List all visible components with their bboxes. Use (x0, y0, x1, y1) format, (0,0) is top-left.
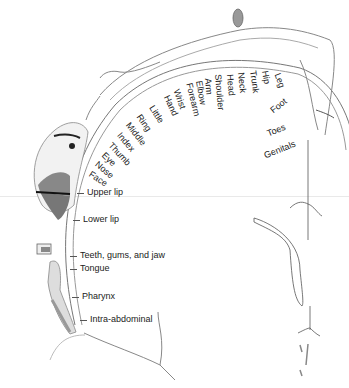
eye (69, 143, 75, 149)
head-drawing (233, 9, 243, 27)
homunculus-diagram: GenitalsToesFootLegHipTrunkNeckHeadShoul… (0, 0, 349, 388)
label-teeth-gums-and-jaw: Teeth, gums, and jaw (80, 251, 165, 260)
label-leader-line (80, 320, 87, 321)
label-leader-line (70, 256, 77, 257)
label-trunk: Trunk (248, 70, 260, 94)
label-head: Head (225, 74, 236, 96)
label-lower-lip: Lower lip (83, 215, 119, 224)
label-hip: Hip (260, 70, 271, 85)
label-neck: Neck (236, 72, 247, 93)
label-leader-line (77, 193, 84, 194)
label-tongue: Tongue (80, 264, 110, 273)
label-leader-line (72, 297, 79, 298)
label-shoulder: Shoulder (213, 74, 225, 111)
label-leader-line (73, 220, 80, 221)
outline-shape (254, 218, 303, 306)
label-intra-abdominal: Intra-abdominal (90, 315, 153, 324)
label-pharynx: Pharynx (82, 292, 115, 301)
label-upper-lip: Upper lip (87, 188, 123, 197)
label-leader-line (70, 269, 77, 270)
homunculus-drawing (0, 0, 349, 388)
